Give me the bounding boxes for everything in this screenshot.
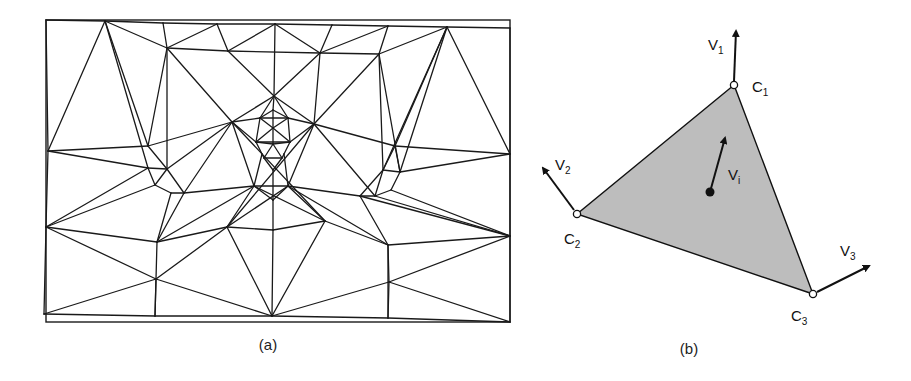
mesh-edge bbox=[228, 24, 275, 51]
interior-point bbox=[706, 188, 715, 197]
caption-a: (a) bbox=[259, 336, 277, 353]
caption-b: (b) bbox=[680, 340, 698, 357]
mesh-edge bbox=[447, 27, 510, 154]
mesh-edge bbox=[167, 48, 228, 51]
mesh-edge bbox=[274, 24, 275, 96]
mesh-edge bbox=[227, 227, 272, 316]
vector-label-v1: V1 bbox=[708, 36, 724, 56]
mesh-edge bbox=[288, 186, 388, 245]
mesh-edge bbox=[105, 21, 167, 48]
mesh-edge bbox=[155, 279, 156, 316]
mesh-edge bbox=[325, 221, 388, 245]
mesh-edge bbox=[389, 282, 510, 322]
mesh-edge bbox=[332, 25, 388, 26]
mesh-edge bbox=[148, 48, 167, 146]
mesh-edge bbox=[156, 279, 272, 316]
mesh-edge bbox=[260, 118, 273, 128]
vector-label-v3: V3 bbox=[840, 242, 856, 262]
figure: (a) C1C2C3V1V2V3Vi (b) bbox=[0, 0, 911, 381]
mesh-edge bbox=[389, 236, 510, 282]
mesh-edge bbox=[157, 186, 254, 242]
mesh-edge bbox=[264, 144, 273, 158]
mesh-edge bbox=[155, 169, 167, 185]
mesh-edge bbox=[254, 154, 262, 186]
mesh-edge bbox=[44, 314, 155, 316]
mesh-edge bbox=[320, 53, 379, 54]
mesh-edge bbox=[105, 21, 163, 23]
mesh-edge bbox=[272, 316, 388, 318]
mesh-edge bbox=[260, 96, 274, 118]
mesh-edge bbox=[167, 24, 217, 48]
vertex-label-c2: C2 bbox=[564, 230, 581, 250]
mesh-edge bbox=[227, 227, 273, 230]
mesh-edge bbox=[391, 190, 510, 236]
mesh-edge bbox=[284, 142, 290, 154]
mesh-edge bbox=[148, 146, 167, 169]
mesh-edge bbox=[148, 168, 155, 185]
vertex-c1 bbox=[730, 81, 737, 88]
vector-arrow-v1 bbox=[734, 31, 736, 81]
mesh-edge bbox=[167, 169, 184, 193]
mesh-edge bbox=[275, 24, 332, 25]
mesh-edge bbox=[288, 186, 325, 221]
mesh-edge bbox=[375, 196, 510, 236]
vertex-label-c3: C3 bbox=[791, 307, 808, 327]
mesh-edge bbox=[48, 21, 105, 151]
mesh-edge bbox=[391, 172, 400, 190]
mesh-edge bbox=[48, 146, 148, 151]
mesh-edge bbox=[383, 170, 400, 172]
vector-label-v2: V2 bbox=[555, 156, 571, 176]
mesh-edge bbox=[284, 154, 288, 186]
shaded-triangle bbox=[577, 85, 813, 294]
mesh-edge bbox=[288, 186, 360, 196]
vertex-c3 bbox=[809, 290, 816, 297]
mesh-edge bbox=[272, 230, 273, 316]
mesh-edge bbox=[46, 168, 148, 227]
mesh-edge bbox=[227, 124, 314, 227]
mesh-edge bbox=[360, 196, 388, 245]
mesh-edge bbox=[379, 26, 388, 54]
panel-a-mesh: (a) bbox=[44, 20, 510, 353]
vertex-label-c1: C1 bbox=[752, 78, 769, 98]
mesh-edge bbox=[48, 151, 148, 168]
mesh-edge bbox=[155, 185, 171, 193]
panel-b-triangle: C1C2C3V1V2V3Vi (b) bbox=[543, 31, 869, 357]
mesh-edge bbox=[274, 53, 320, 96]
mesh-edge bbox=[184, 122, 232, 193]
mesh-edge bbox=[375, 190, 391, 196]
mesh-edge bbox=[447, 27, 510, 28]
mesh-edge bbox=[314, 124, 395, 146]
mesh-edge bbox=[400, 154, 510, 172]
mesh-edge bbox=[273, 128, 290, 142]
mesh-edge bbox=[232, 122, 325, 221]
mesh-edge bbox=[314, 124, 375, 196]
mesh-edge bbox=[288, 118, 290, 142]
mesh-edge bbox=[167, 48, 232, 122]
mesh-edge bbox=[395, 146, 400, 172]
mesh-edge bbox=[148, 122, 232, 146]
mesh-edge bbox=[400, 27, 447, 172]
mesh-edge bbox=[383, 146, 395, 170]
vertex-c2 bbox=[573, 210, 580, 217]
mesh-edge bbox=[273, 221, 325, 230]
mesh-edge bbox=[227, 186, 288, 227]
mesh-edge bbox=[273, 118, 288, 128]
mesh-edge bbox=[272, 282, 389, 316]
vector-arrow-v3 bbox=[817, 266, 869, 292]
mesh-edge bbox=[388, 26, 447, 27]
mesh-edge bbox=[163, 23, 217, 24]
mesh-edge bbox=[148, 168, 167, 169]
mesh-edge bbox=[254, 186, 325, 221]
mesh-edge bbox=[227, 186, 254, 227]
mesh-edge bbox=[217, 24, 228, 51]
mesh-edge bbox=[163, 23, 167, 48]
mesh-edge bbox=[273, 144, 282, 158]
mesh-edges bbox=[44, 20, 510, 322]
mesh-edge bbox=[228, 51, 274, 96]
mesh-edge bbox=[167, 122, 232, 169]
mesh-edge bbox=[314, 54, 379, 124]
mesh-edge bbox=[46, 185, 155, 227]
mesh-edge bbox=[275, 24, 320, 53]
mesh-edge bbox=[44, 279, 156, 314]
mesh-edge bbox=[272, 221, 325, 316]
